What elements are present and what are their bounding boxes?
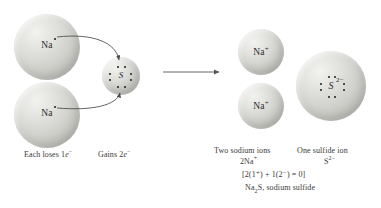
- sulfide-dot-top-left: [328, 76, 330, 78]
- caption-gains: Gains 2e−: [98, 150, 131, 159]
- sodium-atom-top-sphere: Na: [14, 14, 80, 80]
- sodium-ion-bottom-sphere: Na+: [238, 83, 284, 129]
- sodium-atom-bottom-label: Na: [14, 108, 80, 118]
- caption-two-sodium-formula: 2Na+: [240, 157, 257, 166]
- sodium-atom-bottom-sphere: Na: [14, 82, 80, 148]
- caption-one-sulfide-formula: S2−: [324, 157, 335, 166]
- sulfide-dot-bottom-left: [328, 96, 330, 98]
- sodium-atom-top-label: Na: [14, 40, 80, 50]
- sulfide-dot-right-lower: [343, 89, 345, 91]
- caption-one-sulfide-ion: One sulfide ion: [297, 146, 348, 155]
- caption-charge-balance: [2(1⁺) + 1(2⁻) = 0]: [242, 170, 305, 179]
- sulfide-dot-top-right: [334, 76, 336, 78]
- sodium-ion-top-sphere: Na+: [238, 29, 284, 75]
- sodium-ion-bottom-label: Na+: [238, 101, 284, 111]
- caption-two-sodium-ions: Two sodium ions: [214, 146, 271, 155]
- sulfur-dot-bottom-right: [124, 86, 126, 88]
- sulfide-dot-right-upper: [343, 83, 345, 85]
- chemistry-diagram-figure: Na Na S Na+ Na+ S 2−: [0, 0, 381, 208]
- sulfur-atom-label: S: [102, 70, 140, 80]
- sulfide-ion-sphere: S: [296, 51, 366, 121]
- sulfur-dot-left-lower: [109, 79, 111, 81]
- sulfur-dot-bottom-left: [117, 86, 119, 88]
- sulfur-dot-left-upper: [109, 73, 111, 75]
- sodium-ion-top-label: Na+: [238, 47, 284, 57]
- sulfur-dot-right-upper: [130, 73, 132, 75]
- sulfur-dot-top-left: [117, 66, 119, 68]
- sulfur-dot-top-right: [124, 66, 126, 68]
- sulfide-dot-left-lower: [320, 89, 322, 91]
- sulfide-ion-label: S: [296, 80, 366, 91]
- sulfur-atom-sphere: S: [102, 57, 140, 95]
- sulfide-dot-left-upper: [320, 83, 322, 85]
- caption-each-loses: Each loses 1e−: [24, 150, 72, 159]
- sulfur-dot-right-lower: [130, 79, 132, 81]
- caption-compound-name: Na2S, sodium sulfide: [245, 183, 315, 192]
- sulfide-dot-bottom-right: [334, 96, 336, 98]
